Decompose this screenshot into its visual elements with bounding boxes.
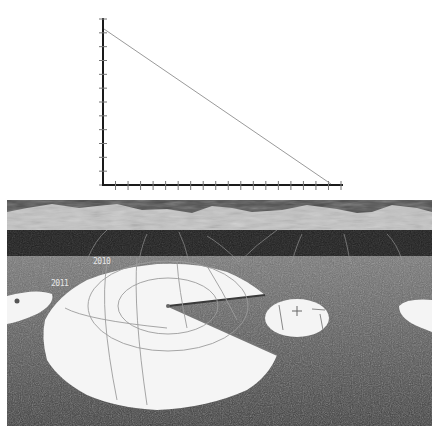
data-line (104, 29, 331, 184)
scene-label: 2010 (93, 257, 110, 266)
y-axis (99, 18, 107, 186)
line-chart (0, 0, 445, 195)
marker (15, 299, 20, 304)
scene-label: 2011 (51, 279, 68, 288)
x-axis (102, 181, 343, 190)
3d-pie-scene: 2010 2011 (7, 200, 432, 426)
pie-slice-right (265, 299, 329, 337)
